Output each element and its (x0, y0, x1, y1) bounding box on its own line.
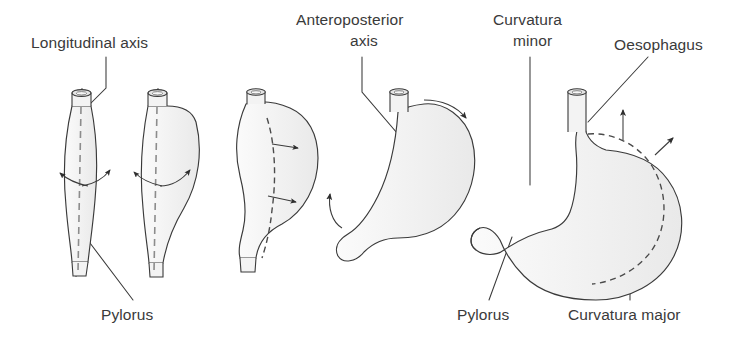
stage5-stomach-body (471, 124, 682, 300)
stage2-pylorus (149, 263, 163, 277)
stage-2-curving-stomach (134, 88, 199, 277)
stage-3-sigmoid-stomach (237, 89, 318, 272)
stage4-rotation-arrow-bottom (330, 194, 343, 228)
stage-4-rotated-stomach (330, 89, 475, 261)
stage4-stomach-body (336, 104, 474, 261)
stage1-oesophagus-lumen (76, 92, 86, 95)
stage3-pylorus (240, 258, 256, 272)
stage3-oesophagus-lumen (251, 91, 261, 94)
stage-1-tubular-stomach (60, 88, 110, 277)
stomach-rotation-diagram (0, 0, 745, 347)
stage3-stomach-body (237, 102, 318, 258)
leader-pylorus-left (90, 243, 133, 300)
stage1-pylorus (72, 262, 88, 276)
stage4-oesophagus-lumen (394, 91, 404, 94)
leader-oesophagus (588, 57, 648, 122)
stage5-arrow-diagonal (655, 138, 673, 155)
stage5-oesophagus-tube (568, 92, 586, 132)
stage5-oesophagus-lumen (572, 91, 582, 94)
stage-5-definitive-stomach (471, 89, 682, 300)
stage2-oesophagus-lumen (152, 92, 162, 95)
